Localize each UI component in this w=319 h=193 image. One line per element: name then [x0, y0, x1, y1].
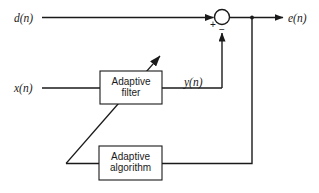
label-e-n: e(n) [288, 12, 307, 25]
block-adaptive-filter-line2: filter [122, 87, 142, 98]
block-adaptive-algorithm-line1: Adaptive [111, 151, 150, 162]
plus-sign-label: + [210, 19, 216, 30]
label-y-n: y(n) [183, 76, 203, 89]
adaptive-filter-diagram: Adaptive filter Adaptive algorithm d(n) … [0, 0, 319, 193]
minus-sign-label: − [219, 24, 225, 35]
label-x-n: x(n) [13, 82, 33, 95]
label-d-n: d(n) [14, 12, 33, 25]
diagram-canvas: Adaptive filter Adaptive algorithm d(n) … [0, 0, 319, 193]
block-adaptive-filter-line1: Adaptive [112, 76, 151, 87]
wire-error-feedback [162, 18, 252, 164]
error-tap-node [250, 16, 254, 20]
summing-junction [215, 10, 230, 25]
block-adaptive-algorithm-line2: algorithm [110, 162, 151, 173]
